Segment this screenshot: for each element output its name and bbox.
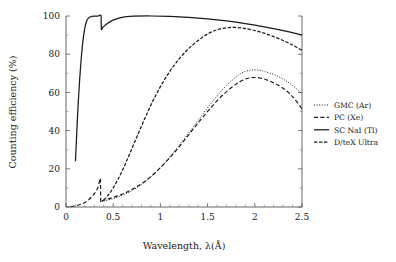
chart-figure: 02040608010000.511.522.5 GMC (Ar)PC (Xe)… xyxy=(0,0,396,262)
y-tick-label: 40 xyxy=(49,126,61,136)
y-tick-label: 20 xyxy=(49,164,61,174)
axis-spines xyxy=(66,16,302,207)
legend-label: SC NaI (Tl) xyxy=(334,126,377,135)
data-series-layer xyxy=(71,15,302,207)
x-axis-title: Wavelength, λ(Å) xyxy=(143,240,226,251)
y-tick-label: 60 xyxy=(49,88,61,98)
axis-ticks xyxy=(66,16,302,207)
series-curve-gmc-ar xyxy=(104,70,302,201)
legend-label: PC (Xe) xyxy=(334,113,363,122)
y-tick-label: 100 xyxy=(43,11,60,21)
x-tick-label: 2 xyxy=(252,212,258,222)
y-tick-label: 0 xyxy=(54,202,60,212)
y-tick-label: 80 xyxy=(49,49,61,59)
x-tick-label: 1 xyxy=(158,212,164,222)
chart-legend: GMC (Ar)PC (Xe)SC NaI (Tl)D/teX Ultra xyxy=(314,101,379,147)
x-tick-label: 2.5 xyxy=(295,212,310,222)
chart-canvas: 02040608010000.511.522.5 GMC (Ar)PC (Xe)… xyxy=(0,0,396,262)
x-tick-label: 0 xyxy=(63,212,69,222)
series-curve-pc-xe xyxy=(71,78,302,207)
series-curve-sc-nai-tl xyxy=(75,15,302,161)
x-tick-label: 1.5 xyxy=(200,212,215,222)
legend-label: D/teX Ultra xyxy=(334,138,379,147)
y-axis-title: Counting efficiency (%) xyxy=(7,56,18,169)
x-tick-label: 0.5 xyxy=(106,212,121,222)
legend-label: GMC (Ar) xyxy=(334,101,371,110)
